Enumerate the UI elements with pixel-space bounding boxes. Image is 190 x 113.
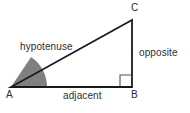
side-label-hypotenuse: hypotenuse xyxy=(20,42,73,52)
side-label-opposite: opposite xyxy=(139,48,178,58)
triangle-diagram: hypotenuse adjacent opposite A B C xyxy=(0,0,190,113)
vertex-label-c: C xyxy=(131,3,138,13)
right-angle-square-icon xyxy=(120,75,131,86)
triangle-outline xyxy=(11,20,132,87)
shaded-angle-sector-icon xyxy=(11,57,47,87)
vertex-label-b: B xyxy=(131,90,138,100)
side-label-adjacent: adjacent xyxy=(63,91,102,101)
vertex-label-a: A xyxy=(6,90,13,100)
